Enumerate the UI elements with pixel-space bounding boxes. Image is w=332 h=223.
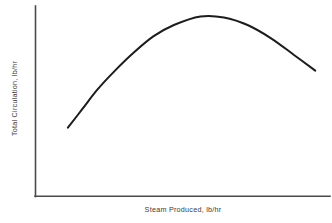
plot-area <box>0 0 332 223</box>
x-axis-label: Steam Produced, lb/hr <box>0 205 332 214</box>
chart-figure: Total Circulation, lb/hr Steam Produced,… <box>0 0 332 223</box>
y-axis-label-container: Total Circulation, lb/hr <box>0 0 30 196</box>
y-axis-label: Total Circulation, lb/hr <box>11 60 20 135</box>
chart-background <box>0 0 332 223</box>
